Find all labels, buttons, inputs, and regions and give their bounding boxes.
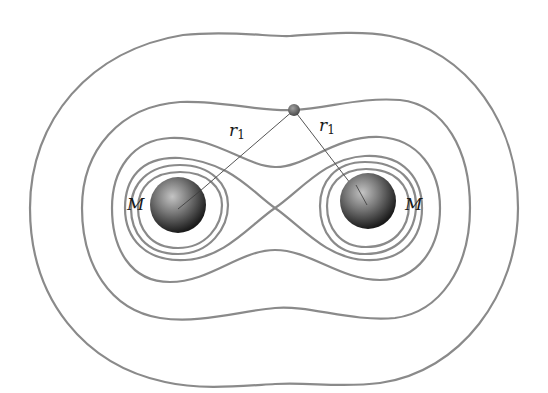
label-mass-right-text: M (405, 194, 422, 214)
label-r-left-main: r (229, 120, 237, 140)
label-r-right-sub: 1 (327, 123, 335, 137)
equipotential-diagram (0, 0, 548, 393)
label-mass-left: M (127, 196, 144, 213)
mass-sphere-left (150, 177, 206, 233)
label-mass-left-text: M (127, 194, 144, 214)
label-mass-right: M (405, 196, 422, 213)
label-r1-right: r1 (319, 117, 335, 136)
label-r-left-sub: 1 (237, 128, 245, 142)
test-point (288, 104, 300, 116)
label-r1-left: r1 (229, 122, 245, 141)
label-r-right-main: r (319, 115, 327, 135)
mass-sphere-right (340, 173, 396, 229)
